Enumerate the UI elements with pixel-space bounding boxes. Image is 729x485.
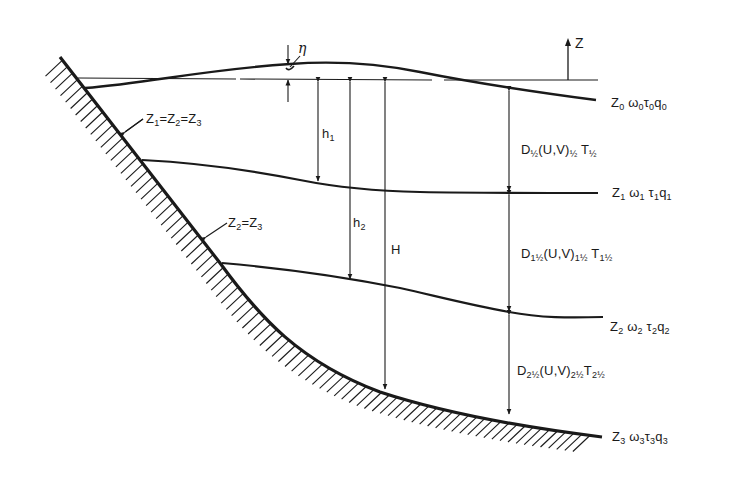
bank-label-z2-z3: Z2=Z3 [228,216,263,232]
level-2-label: Z2 ω2 τ2q2 [610,320,670,336]
interface-z2 [222,263,603,317]
level-3-label: Z3 ω3τ3q3 [612,430,668,446]
eta-label: η [298,41,307,55]
h1-label: h1 [322,127,335,143]
layer-1half-label: D1½(U,V)1½ T1½ [521,247,612,263]
free-surface-z0 [85,63,596,100]
level-0-label: Z0 ω0τ0q0 [611,96,667,112]
bank-label-z1-z2-z3: Z1=Z2=Z3 [146,112,202,128]
layer-2half-label: D2½(U,V)2½T2½ [517,364,605,380]
h2-label: h2 [353,216,366,232]
level-1-label: Z1 ω1 τ1q1 [612,186,672,202]
H-label: H [391,243,401,256]
interface-z1 [142,160,598,193]
z-axis-label: Z [575,36,584,50]
layered-model-diagram [0,0,729,485]
layer-half-label: D½(U,V)½ T½ [521,143,597,159]
